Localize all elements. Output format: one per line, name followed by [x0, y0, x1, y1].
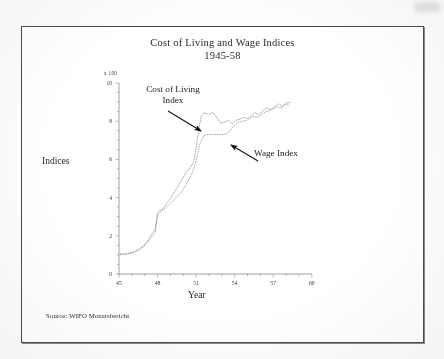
- y-tick-label-2: 2: [98, 233, 112, 239]
- series-wage-index: [120, 104, 289, 255]
- x-tick-label-45: 45: [111, 280, 127, 286]
- x-tick-label-51: 51: [188, 280, 204, 286]
- figure-frame: Cost of Living and Wage Indices 1945-58: [21, 26, 424, 343]
- y-tick-label-0: 0: [98, 271, 112, 277]
- series-layer: [120, 102, 290, 254]
- source-note: Source: WIFO Monatsbericht: [46, 312, 129, 319]
- cost-of-living-annotation: Cost of Living Index: [130, 84, 216, 106]
- y-tick-marks: [116, 83, 120, 274]
- annotation-arrows: [168, 111, 258, 161]
- line-chart-svg: [22, 27, 425, 344]
- series-cost-of-living-index: [120, 102, 290, 254]
- x-tick-marks: [119, 274, 312, 278]
- x-tick-label-60: 60: [304, 280, 320, 286]
- cost-of-living-annotation-line2: Index: [130, 95, 216, 106]
- axes: [119, 83, 312, 274]
- y-tick-label-4: 4: [98, 195, 112, 201]
- plot-area: x 100 0 2 4 6 8 10 45 48 51 54 57 60 Ind…: [22, 27, 425, 344]
- y-tick-label-6: 6: [98, 156, 112, 162]
- x-axis-title: Year: [188, 290, 206, 300]
- scanned-page: Cost of Living and Wage Indices 1945-58: [0, 0, 444, 359]
- cost-of-living-arrow: [168, 111, 201, 131]
- y-tick-label-8: 8: [98, 118, 112, 124]
- cost-of-living-annotation-line1: Cost of Living: [130, 84, 216, 95]
- y-axis-unit-label: x 100: [104, 70, 117, 76]
- scan-smudge: [414, 2, 440, 12]
- x-tick-label-54: 54: [227, 280, 243, 286]
- y-axis-title: Indices: [42, 156, 69, 166]
- y-tick-label-10: 10: [98, 80, 112, 86]
- x-tick-label-57: 57: [265, 280, 281, 286]
- wage-index-annotation: Wage Index: [254, 148, 324, 159]
- x-tick-label-48: 48: [150, 280, 166, 286]
